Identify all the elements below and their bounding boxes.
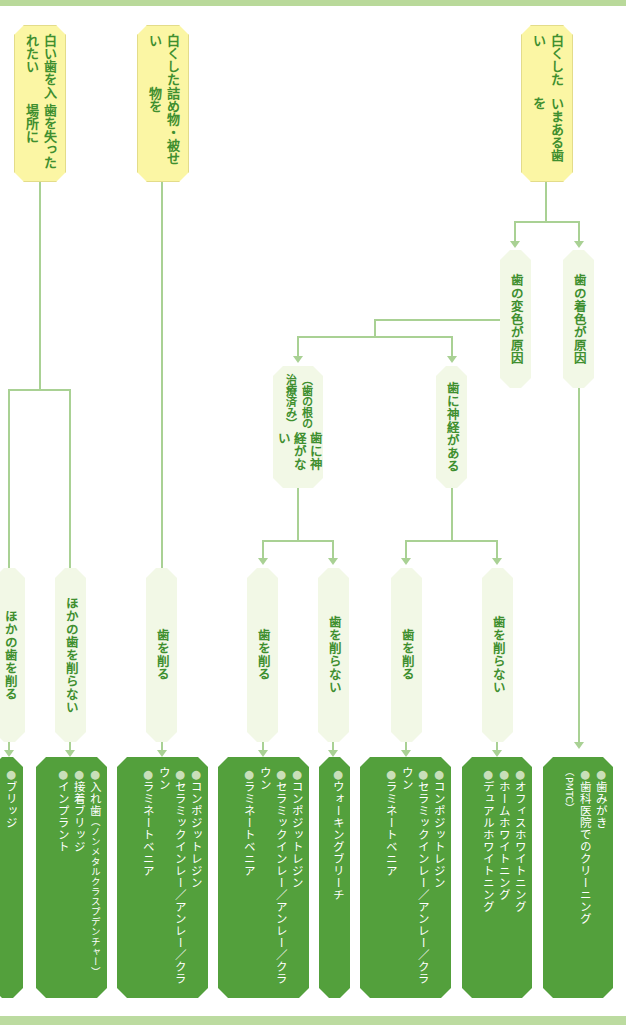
- goal-replace-missing-teeth: 歯を失った場所に 白い歯を入れたい: [14, 25, 66, 182]
- result-item: ●コンポジットレジン: [431, 767, 447, 988]
- action-no-cutting: 歯を削らない: [318, 568, 349, 742]
- cause-label: 歯の変色が原因: [508, 274, 524, 365]
- bullet-icon: ●: [513, 767, 527, 781]
- result-item: ●セラミックインレー／アンレー／クラウン: [257, 767, 289, 988]
- goal-line2: 白い歯を入れたい: [22, 34, 58, 104]
- bullet-icon: ●: [497, 767, 511, 781]
- nerve-label: 歯に神経がある: [444, 382, 460, 473]
- nerve-present: 歯に神経がある: [436, 366, 467, 488]
- result-item: ●ホームホワイトニング: [496, 767, 512, 988]
- result-item: ●インプラント: [55, 767, 71, 988]
- result-item: ●入れ歯（ノンメタルクラスプデンチャー）: [87, 767, 103, 988]
- result-note: （PMTC）: [561, 767, 577, 988]
- action-label: 歯を削らない: [326, 616, 342, 694]
- goal-line1: 詰め物・被せ物を: [145, 87, 181, 173]
- result-walking-bleach: ●ウォーキングブリーチ: [319, 757, 350, 998]
- bullet-icon: ●: [416, 767, 430, 781]
- action-label: ほかの歯を削る: [2, 610, 18, 701]
- bullet-icon: ●: [141, 767, 155, 781]
- goal-line1: いまある歯を: [529, 97, 565, 173]
- nerve-absent: 歯に神経がない （歯の根の治療済み）: [273, 366, 323, 488]
- action-label: 歯を削る: [154, 629, 170, 681]
- result-item: ●ブリッジ: [3, 767, 19, 988]
- bullet-icon: ●: [189, 767, 203, 781]
- result-item: ●コンポジットレジン: [289, 767, 305, 988]
- goal-line2: 白くしたい: [529, 34, 565, 97]
- result-item: ●ウォーキングブリーチ: [330, 767, 346, 988]
- action-no-cutting: 歯を削らない: [482, 568, 513, 742]
- result-item: ●ラミネートベニア: [140, 767, 156, 988]
- result-restorations: ●コンポジットレジン ●セラミックインレー／アンレー／クラウン ●ラミネートベニ…: [360, 757, 451, 998]
- result-restorations: ●コンポジットレジン ●セラミックインレー／アンレー／クラウン ●ラミネートベニ…: [117, 757, 208, 998]
- bullet-icon: ●: [56, 767, 70, 781]
- result-item: ●セラミックインレー／アンレー／クラウン: [399, 767, 431, 988]
- nerve-label: 歯に神経がない: [274, 432, 322, 480]
- result-item: ●歯みがき: [593, 767, 609, 988]
- result-item: ●ラミネートベニア: [383, 767, 399, 988]
- action-cutting: 歯を削る: [146, 568, 177, 742]
- bullet-icon: ●: [72, 767, 86, 781]
- cause-discoloration: 歯の変色が原因: [500, 250, 531, 388]
- goal-line1: 歯を失った場所に: [22, 104, 58, 174]
- action-cutting: 歯を削る: [247, 568, 278, 742]
- action-label: 歯を削る: [255, 629, 271, 681]
- cause-label: 歯の着色が原因: [571, 274, 587, 365]
- result-dentures-implants: ●入れ歯（ノンメタルクラスプデンチャー） ●接着ブリッジ ●インプラント: [36, 757, 107, 998]
- result-item: ●ラミネートベニア: [241, 767, 257, 988]
- result-restorations: ●コンポジットレジン ●セラミックインレー／アンレー／クラウン ●ラミネートベニ…: [218, 757, 309, 998]
- bullet-icon: ●: [384, 767, 398, 781]
- bullet-icon: ●: [242, 767, 256, 781]
- result-brushing-cleaning: ●歯みがき ●歯科医院でのクリーニング （PMTC）: [543, 757, 613, 998]
- action-label: 歯を削らない: [490, 616, 506, 694]
- result-item: ●オフィスホワイトニング: [512, 767, 528, 988]
- bullet-icon: ●: [4, 767, 18, 781]
- bullet-icon: ●: [88, 767, 102, 781]
- bullet-icon: ●: [594, 767, 608, 781]
- bullet-icon: ●: [578, 767, 592, 781]
- result-item: ●接着ブリッジ: [71, 767, 87, 988]
- result-item: ●歯科医院でのクリーニング: [577, 767, 593, 988]
- action-label: ほかの歯を削らない: [63, 597, 79, 714]
- bullet-icon: ●: [173, 767, 187, 781]
- bottom-band: [0, 1016, 626, 1025]
- action-no-cutting-other-teeth: ほかの歯を削らない: [55, 568, 86, 742]
- top-band: [0, 0, 626, 6]
- result-item: ●コンポジットレジン: [188, 767, 204, 988]
- goal-whiten-fillings-crowns: 詰め物・被せ物を 白くしたい: [137, 25, 189, 182]
- action-label: 歯を削る: [399, 629, 415, 681]
- nerve-sublabel: （歯の根の治療済み）: [282, 374, 314, 432]
- result-whitening: ●オフィスホワイトニング ●ホームホワイトニング ●デュアルホワイトニング: [462, 757, 532, 998]
- cause-staining: 歯の着色が原因: [563, 250, 594, 388]
- result-note: （ノンメタルクラスプデンチャー）: [90, 817, 101, 977]
- goal-line2: 白くしたい: [145, 34, 181, 87]
- result-item: ●セラミックインレー／アンレー／クラウン: [156, 767, 188, 988]
- bullet-icon: ●: [290, 767, 304, 781]
- action-cutting-other-teeth: ほかの歯を削る: [0, 568, 25, 742]
- result-item: ●デュアルホワイトニング: [480, 767, 496, 988]
- bullet-icon: ●: [331, 767, 345, 781]
- result-bridge: ●ブリッジ: [0, 757, 23, 998]
- bullet-icon: ●: [432, 767, 446, 781]
- bullet-icon: ●: [274, 767, 288, 781]
- goal-whiten-existing-teeth: いまある歯を 白くしたい: [521, 25, 573, 182]
- action-cutting: 歯を削る: [391, 568, 422, 742]
- bullet-icon: ●: [481, 767, 495, 781]
